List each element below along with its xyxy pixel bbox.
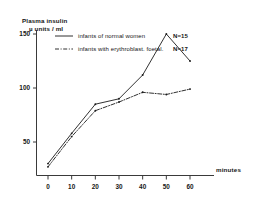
data-point — [165, 94, 167, 96]
data-point — [142, 91, 144, 93]
series-line-2 — [48, 89, 190, 167]
x-tick-label: 50 — [163, 183, 171, 190]
x-tick-label: 40 — [139, 183, 147, 190]
x-axis-ticks: 0102030405060 — [46, 176, 194, 191]
data-point — [118, 98, 120, 100]
data-series-group — [47, 33, 191, 168]
legend-count-1: N=15 — [173, 33, 188, 39]
data-point — [189, 60, 191, 62]
x-axis-title: minutes — [216, 166, 241, 173]
y-tick-label: 50 — [23, 138, 31, 145]
data-point — [47, 166, 49, 168]
plot-area: 50100150 0102030405060 minutes infants o… — [0, 0, 254, 210]
y-axis-ticks: 50100150 — [19, 30, 36, 145]
data-point — [71, 132, 73, 134]
legend-label-2: infants with erythroblast. foetal. — [78, 46, 164, 52]
data-point — [94, 110, 96, 112]
legend-count-2: N=17 — [173, 46, 188, 52]
x-tick-label: 30 — [115, 183, 123, 190]
x-tick-label: 10 — [68, 183, 76, 190]
x-tick-label: 60 — [186, 183, 194, 190]
data-point — [47, 163, 49, 165]
data-point — [165, 33, 167, 35]
insulin-response-line-chart: Plasma insulin µ units / ml 50100150 010… — [0, 0, 254, 210]
data-point — [94, 103, 96, 105]
x-tick-label: 20 — [92, 183, 100, 190]
data-point — [71, 136, 73, 138]
y-tick-label: 100 — [19, 84, 30, 91]
data-point — [142, 74, 144, 76]
y-tick-label: 150 — [19, 30, 30, 37]
data-point — [189, 88, 191, 90]
data-point — [118, 101, 120, 103]
legend-label-1: infants of normal women — [78, 33, 145, 39]
x-tick-label: 0 — [46, 183, 50, 190]
